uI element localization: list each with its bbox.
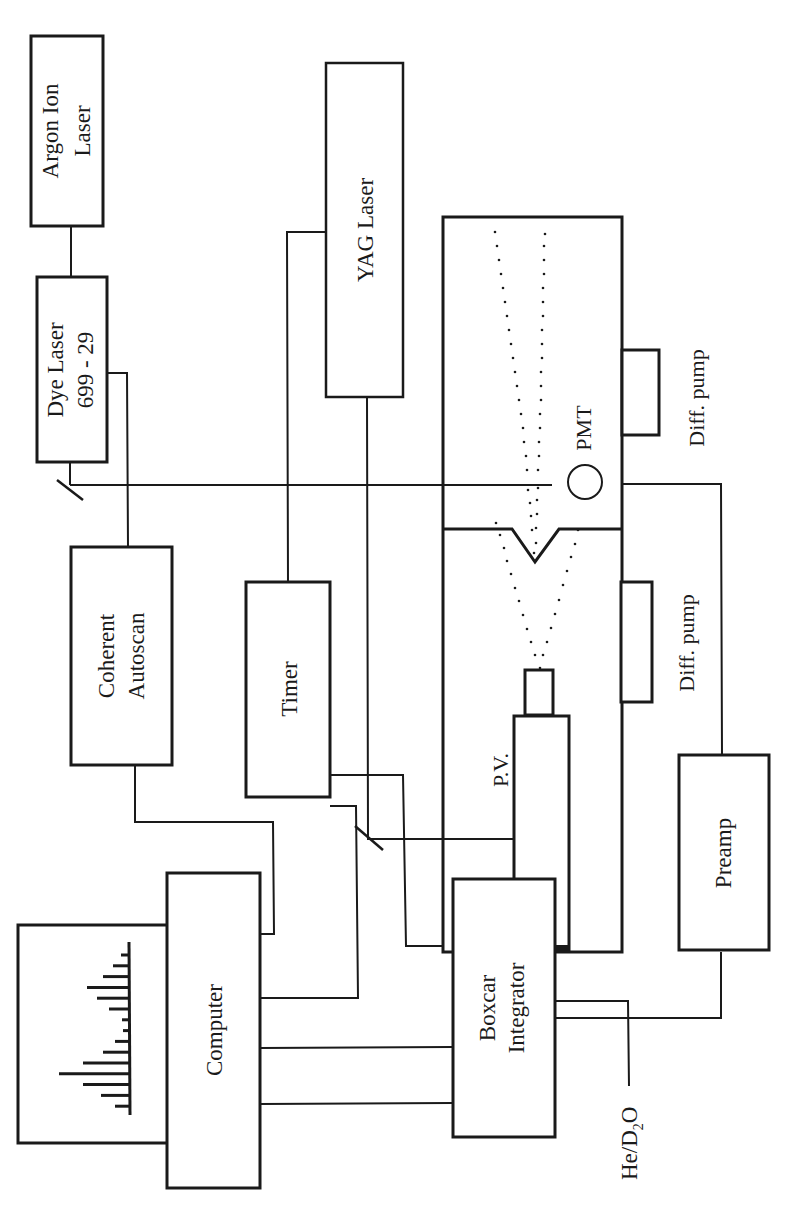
argon-ion-laser-box: Argon Ion Laser bbox=[31, 36, 103, 226]
boxcar-integrator-label-2: Integrator bbox=[504, 962, 529, 1053]
wire-dye-to-autoscan bbox=[107, 373, 128, 547]
coherent-autoscan-box: Coherent Autoscan bbox=[71, 547, 172, 765]
experimental-setup-diagram: Argon Ion Laser Dye Laser 699 - 29 YAG L… bbox=[0, 0, 789, 1216]
boxcar-integrator-label-1: Boxcar bbox=[475, 974, 500, 1041]
wire-computer-to-boxcar-2 bbox=[260, 1103, 452, 1104]
dye-laser-label-1: Dye Laser bbox=[43, 322, 68, 417]
yag-laser-label: YAG Laser bbox=[353, 178, 378, 282]
coherent-autoscan-label-1: Coherent bbox=[94, 613, 119, 698]
timer-label: Timer bbox=[277, 661, 302, 717]
argon-ion-laser-label-2: Laser bbox=[70, 105, 95, 156]
computer-label: Computer bbox=[202, 984, 227, 1076]
spectrum-display bbox=[18, 925, 170, 1143]
wire-boxcar-to-preamp bbox=[555, 952, 721, 1018]
coherent-autoscan-label-2: Autoscan bbox=[124, 612, 149, 699]
argon-ion-laser-label-1: Argon Ion bbox=[38, 83, 63, 178]
diff-pump-bottom-label: Diff. pump bbox=[674, 594, 699, 691]
wire-timer-to-boxcar bbox=[330, 775, 452, 946]
preamp-label: Preamp bbox=[711, 818, 736, 888]
preamp-box: Preamp bbox=[679, 755, 769, 950]
wire-yag-to-timer bbox=[287, 232, 325, 582]
gas-inlet-label: He/D2O bbox=[617, 1107, 646, 1180]
wire-computer-to-boxcar-1 bbox=[260, 1047, 452, 1048]
diff-pump-top-label: Diff. pump bbox=[684, 349, 709, 446]
spectrum-axis bbox=[129, 942, 130, 1115]
computer-box: Computer bbox=[167, 873, 260, 1188]
dye-laser-box: Dye Laser 699 - 29 bbox=[37, 277, 107, 462]
dye-laser-label-2: 699 - 29 bbox=[73, 332, 98, 409]
diff-pump-top: Diff. pump bbox=[622, 349, 709, 446]
pmt-label: PMT bbox=[571, 405, 596, 451]
diff-pump-bottom: Diff. pump bbox=[621, 582, 699, 702]
boxcar-integrator-box: Boxcar Integrator bbox=[453, 879, 555, 1137]
timer-box: Timer bbox=[246, 582, 330, 797]
pulsed-valve-label: P.V. bbox=[488, 753, 513, 787]
yag-laser-box: YAG Laser bbox=[326, 63, 403, 397]
